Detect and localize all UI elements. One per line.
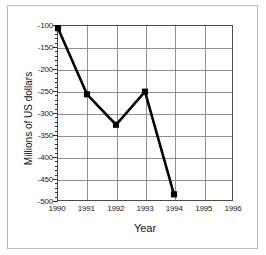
data-point-marker bbox=[113, 122, 119, 128]
y-axis-tick-label: -250 bbox=[38, 87, 53, 96]
y-axis-tick-label: -300 bbox=[38, 109, 53, 118]
x-axis-tick-label: 1993 bbox=[137, 204, 154, 213]
y-axis-tick-label: -450 bbox=[38, 175, 53, 184]
data-point-marker bbox=[171, 191, 177, 197]
x-axis-tick-labels: 1990199119921993199419951996 bbox=[57, 204, 233, 216]
y-axis-tick-label: -100 bbox=[38, 21, 53, 30]
y-axis-tick-labels: -100-150-200-250-300-350-400-450-500 bbox=[24, 25, 53, 201]
series-line bbox=[58, 28, 174, 194]
x-axis-tick-label: 1992 bbox=[107, 204, 124, 213]
x-axis-tick-label: 1996 bbox=[225, 204, 242, 213]
y-axis-tick-mark bbox=[53, 201, 58, 202]
data-point-marker bbox=[84, 91, 90, 97]
x-axis-title: Year bbox=[57, 222, 233, 234]
x-axis-tick-label: 1995 bbox=[195, 204, 212, 213]
y-axis-tick-label: -400 bbox=[38, 153, 53, 162]
data-series-line bbox=[58, 26, 232, 200]
y-axis-tick-label: -150 bbox=[38, 43, 53, 52]
y-axis-tick-label: -200 bbox=[38, 65, 53, 74]
y-axis-tick-label: -350 bbox=[38, 131, 53, 140]
data-point-marker bbox=[142, 89, 148, 95]
plot-area bbox=[57, 25, 233, 201]
x-axis-tick-label: 1994 bbox=[166, 204, 183, 213]
x-axis-tick-label: 1991 bbox=[78, 204, 95, 213]
x-axis-tick-label: 1990 bbox=[49, 204, 66, 213]
chart-figure: Millions of US dollars -100-150-200-250-… bbox=[0, 0, 266, 255]
data-point-marker bbox=[55, 25, 61, 31]
